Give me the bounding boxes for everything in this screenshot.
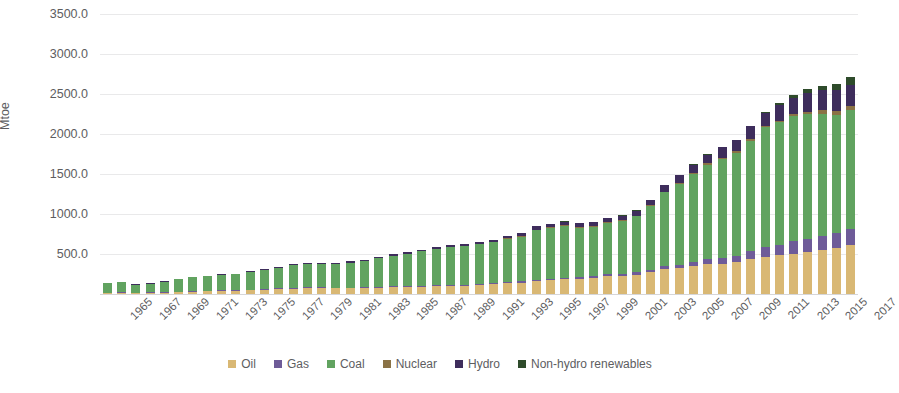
legend-item[interactable]: Hydro	[455, 358, 500, 370]
bar[interactable]	[432, 247, 441, 294]
bar[interactable]	[160, 281, 169, 294]
bar-segment	[303, 264, 312, 287]
bar[interactable]	[846, 77, 855, 294]
bar-segment	[818, 250, 827, 294]
bar[interactable]	[231, 274, 240, 294]
bar-segment	[231, 274, 240, 290]
bar[interactable]	[646, 200, 655, 294]
bar[interactable]	[303, 263, 312, 294]
bar[interactable]	[360, 260, 369, 294]
bar[interactable]	[703, 154, 712, 294]
bar[interactable]	[532, 226, 541, 294]
bar[interactable]	[317, 263, 326, 294]
bar[interactable]	[603, 218, 612, 294]
bar-segment	[146, 284, 155, 293]
bar[interactable]	[761, 112, 770, 294]
bar[interactable]	[746, 126, 755, 295]
bar[interactable]	[203, 276, 212, 294]
bar-segment	[103, 283, 112, 292]
bar[interactable]	[560, 221, 569, 294]
bar[interactable]	[331, 263, 340, 294]
x-axis-tick-label: 1987	[443, 296, 469, 322]
bar[interactable]	[546, 224, 555, 294]
bar-segment	[417, 251, 426, 285]
bar[interactable]	[503, 236, 512, 294]
bar[interactable]	[689, 164, 698, 294]
bar-segment	[732, 140, 741, 151]
bar-segment	[546, 228, 555, 280]
bar[interactable]	[289, 264, 298, 294]
bar[interactable]	[575, 223, 584, 294]
bar-segment	[646, 206, 655, 270]
bar[interactable]	[803, 89, 812, 294]
bar-segment	[718, 159, 727, 258]
bar[interactable]	[346, 261, 355, 294]
legend-swatch-icon	[228, 360, 236, 368]
bar[interactable]	[675, 175, 684, 294]
bar[interactable]	[775, 103, 784, 294]
bar-segment	[289, 265, 298, 287]
bar[interactable]	[188, 277, 197, 294]
bar[interactable]	[217, 274, 226, 294]
bar-segment	[160, 282, 169, 292]
bar[interactable]	[174, 279, 183, 294]
legend-item[interactable]: Oil	[228, 358, 256, 370]
bar[interactable]	[446, 245, 455, 294]
bar-segment	[560, 279, 569, 294]
bar[interactable]	[260, 269, 269, 294]
bar-segment	[331, 264, 340, 287]
bar[interactable]	[146, 283, 155, 294]
bar[interactable]	[618, 215, 627, 294]
bar-segment	[775, 255, 784, 294]
bar[interactable]	[475, 242, 484, 294]
bar[interactable]	[246, 271, 255, 294]
bar[interactable]	[417, 250, 426, 295]
bar[interactable]	[460, 244, 469, 294]
x-axis-tick-label: 1993	[529, 296, 555, 322]
x-axis-tick-label: 1989	[472, 296, 498, 322]
bar[interactable]	[131, 284, 140, 294]
bar[interactable]	[589, 222, 598, 294]
bar-segment	[746, 141, 755, 251]
bar-segment	[446, 286, 455, 294]
y-axis-tick-label: 3000.0	[50, 48, 88, 61]
bar[interactable]	[660, 185, 669, 294]
bar[interactable]	[718, 147, 727, 294]
bar-segment	[775, 105, 784, 121]
bar-segment	[632, 275, 641, 294]
bar-segment	[603, 276, 612, 294]
bar-segment	[618, 221, 627, 274]
bar[interactable]	[489, 240, 498, 294]
legend-item[interactable]: Coal	[327, 358, 365, 370]
plot-area	[100, 14, 858, 294]
y-axis-tick-label: 2000.0	[50, 128, 88, 141]
legend-swatch-icon	[274, 360, 282, 368]
x-axis-tick-label: 2017	[872, 296, 898, 322]
y-axis-tick-label: 1000.0	[50, 208, 88, 221]
bar-segment	[718, 264, 727, 294]
bar[interactable]	[732, 140, 741, 294]
bar[interactable]	[403, 252, 412, 294]
legend-item[interactable]: Non-hydro renewables	[518, 358, 652, 370]
bar[interactable]	[374, 257, 383, 294]
bar-segment	[603, 223, 612, 274]
bar[interactable]	[789, 95, 798, 294]
bar[interactable]	[274, 267, 283, 294]
bar[interactable]	[517, 233, 526, 294]
bar[interactable]	[103, 283, 112, 294]
legend-item[interactable]: Nuclear	[383, 358, 437, 370]
bar[interactable]	[818, 86, 827, 294]
bar-segment	[732, 262, 741, 294]
bar[interactable]	[389, 254, 398, 294]
x-axis-tick-label: 2007	[729, 296, 755, 322]
x-axis: 1965196719691971197319751977197919811983…	[0, 296, 880, 356]
bar[interactable]	[832, 84, 841, 294]
bar-segment	[789, 241, 798, 253]
bar[interactable]	[632, 210, 641, 294]
y-axis-tick-label: 1500.0	[50, 168, 88, 181]
legend-item[interactable]: Gas	[274, 358, 309, 370]
legend-label: Non-hydro renewables	[531, 358, 652, 370]
bar[interactable]	[117, 282, 126, 294]
bar-segment	[203, 276, 212, 291]
